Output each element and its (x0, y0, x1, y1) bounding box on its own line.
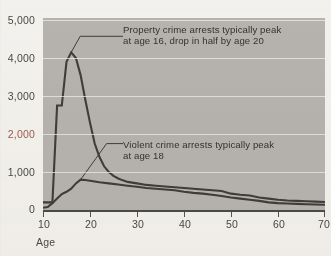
y-axis: 5,000 4,000 3,000 2,000 1,000 0 (0, 0, 41, 214)
crime-arrests-line-chart: 5,000 4,000 3,000 2,000 1,000 0 (0, 0, 331, 256)
x-tick-label-50: 50 (226, 218, 238, 230)
x-tick-label-30: 30 (132, 218, 144, 230)
x-tick-label-60: 60 (273, 218, 285, 230)
violent-crime-line (43, 180, 325, 208)
x-tick-70 (324, 212, 325, 217)
gridline-2000 (43, 134, 325, 135)
x-tick-10 (43, 212, 44, 217)
y-tick-label-5000: 5,000 (8, 14, 35, 26)
annotation-violent-crime: Violent crime arrests typically peak at … (123, 139, 274, 162)
property-annotation-leader-line (71, 36, 123, 52)
x-tick-label-40: 40 (179, 218, 191, 230)
x-tick-30 (137, 212, 138, 217)
y-tick-label-4000: 4,000 (8, 52, 35, 64)
y-tick-label-2000: 2,000 (8, 128, 35, 140)
x-axis-title: Age (36, 236, 55, 248)
y-tick-label-1000: 1,000 (8, 166, 35, 178)
x-tick-20 (90, 212, 91, 217)
gridline-3000 (43, 96, 325, 97)
gridline-4000 (43, 58, 325, 59)
gridline-1000 (43, 172, 325, 173)
gridline-5000 (43, 20, 325, 21)
x-tick-40 (184, 212, 185, 217)
x-tick-label-70: 70 (318, 218, 330, 230)
x-tick-label-10: 10 (38, 218, 50, 230)
annotation-property-crime: Property crime arrests typically peak at… (123, 24, 281, 47)
y-tick-label-0: 0 (29, 203, 35, 215)
y-tick-label-3000: 3,000 (8, 90, 35, 102)
x-tick-50 (231, 212, 232, 217)
x-tick-60 (278, 212, 279, 217)
x-tick-label-20: 20 (85, 218, 97, 230)
